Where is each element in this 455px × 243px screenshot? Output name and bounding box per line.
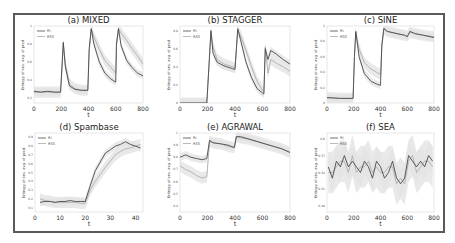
figure: (a) MIXED0200400600800t0.20.40.60.81Entr… <box>0 0 455 243</box>
legend-label: RSS <box>48 142 56 146</box>
y-tick-label: 0.8 <box>173 29 178 33</box>
x-tick-label: 0 <box>32 105 36 112</box>
legend-label: RI <box>340 136 344 140</box>
chart-panel-6: (f) SEA0200400600800t0.480.510.540.570.6… <box>314 122 440 228</box>
y-tick-label: 0.6 <box>28 162 33 166</box>
x-tick-label: 800 <box>284 214 296 221</box>
y-tick-label: 0.7 <box>173 167 178 171</box>
y-tick-label: 0.5 <box>173 192 178 196</box>
x-tick-label: 0 <box>178 214 182 221</box>
legend-label: RI <box>48 136 52 140</box>
x-tick-label: 200 <box>202 105 214 112</box>
y-tick-label: 0.57 <box>318 154 325 158</box>
chart-title: (f) SEA <box>366 122 395 132</box>
chart-panel-2: (b) STAGGER0200400600800t00.20.40.60.8En… <box>167 15 296 119</box>
y-tick-label: 0.8 <box>320 39 325 43</box>
y-tick-label: 0.6 <box>320 137 325 141</box>
x-tick-label: 30 <box>107 214 115 221</box>
x-tick-label: 0 <box>33 214 37 221</box>
x-tick-label: 800 <box>428 105 440 112</box>
x-axis-label: t <box>379 220 382 228</box>
x-tick-label: 0 <box>178 105 182 112</box>
legend-label: RI <box>340 29 344 33</box>
y-tick-label: 0.1 <box>28 206 33 210</box>
y-tick-label: 0.8 <box>173 155 178 159</box>
x-tick-label: 0 <box>325 105 329 112</box>
y-tick-label: 0.9 <box>28 135 33 139</box>
y-tick-label: 0.48 <box>318 204 325 208</box>
y-tick-label: 0.8 <box>28 144 33 148</box>
x-tick-label: 600 <box>257 105 269 112</box>
y-tick-label: 0.4 <box>173 204 178 208</box>
y-tick-label: 0.2 <box>27 96 32 100</box>
y-tick-label: 0.4 <box>320 70 325 74</box>
y-tick-label: 0.2 <box>173 83 178 87</box>
y-tick-label: 0.7 <box>28 153 33 157</box>
legend-label: RSS <box>340 35 348 39</box>
y-tick-label: 0.2 <box>28 197 33 201</box>
legend-label: RI <box>47 29 51 33</box>
y-tick-label: 0.2 <box>320 86 325 90</box>
y-tick-label: 0.4 <box>27 78 32 82</box>
y-tick-label: 0.5 <box>28 171 33 175</box>
y-tick-label: 0.4 <box>28 179 33 183</box>
y-tick-label: 0.9 <box>173 143 178 147</box>
chart-title: (a) MIXED <box>67 15 110 25</box>
x-tick-label: 600 <box>402 214 414 221</box>
legend-label: RSS <box>47 35 55 39</box>
x-tick-label: 200 <box>348 214 360 221</box>
x-tick-label: 600 <box>402 105 414 112</box>
y-axis-label: Entropy of ens. avg. of pred. <box>22 147 26 198</box>
y-tick-label: 1 <box>30 24 32 28</box>
x-tick-label: 800 <box>137 105 149 112</box>
chart-panel-5: (e) AGRAWAL0200400600800t0.40.50.60.70.8… <box>167 122 296 228</box>
legend-label: RSS <box>340 142 348 146</box>
y-tick-label: 1 <box>323 24 325 28</box>
chart-panel-3: (c) SINE0200400600800t00.20.40.60.81Entr… <box>314 15 440 119</box>
chart-title: (c) SINE <box>364 15 398 25</box>
chart-title: (b) STAGGER <box>208 15 263 25</box>
legend-label: RI <box>193 29 197 33</box>
x-tick-label: 600 <box>110 105 122 112</box>
x-tick-label: 800 <box>428 214 440 221</box>
x-axis-label: t <box>379 111 382 119</box>
chart-panel-1: (a) MIXED0200400600800t0.20.40.60.81Entr… <box>21 15 149 119</box>
x-axis-label: t <box>234 220 237 228</box>
legend-label: RSS <box>193 142 201 146</box>
y-tick-label: 0 <box>323 101 325 105</box>
y-axis-label: Entropy of ens. avg. of pred. <box>314 147 318 198</box>
y-tick-label: 0.8 <box>27 42 32 46</box>
y-axis-label: Entropy of ens. avg. of pred. <box>314 39 318 90</box>
chart-panel-4: (d) Spambase010203040t0.10.20.30.40.50.6… <box>22 122 143 228</box>
y-axis-label: Entropy of ens. avg. of pred. <box>167 147 171 198</box>
y-tick-label: 0.6 <box>173 47 178 51</box>
y-tick-label: 0.4 <box>173 65 178 69</box>
y-axis-label: Entropy of ens. avg. of pred. <box>167 39 171 90</box>
x-tick-label: 600 <box>257 214 269 221</box>
x-axis-label: t <box>88 220 91 228</box>
y-tick-label: 0.6 <box>27 60 32 64</box>
y-tick-label: 0.54 <box>318 171 325 175</box>
x-tick-label: 40 <box>132 214 140 221</box>
x-tick-label: 200 <box>202 214 214 221</box>
chart-title: (d) Spambase <box>59 122 118 132</box>
legend-label: RI <box>193 136 197 140</box>
y-tick-label: 0.6 <box>320 55 325 59</box>
legend-label: RSS <box>193 35 201 39</box>
x-tick-label: 0 <box>325 214 329 221</box>
y-tick-label: 0.51 <box>318 187 325 191</box>
x-axis-label: t <box>234 111 237 119</box>
y-tick-label: 0.6 <box>173 180 178 184</box>
y-tick-label: 0.3 <box>28 188 33 192</box>
chart-title: (e) AGRAWAL <box>207 122 263 132</box>
x-tick-label: 800 <box>284 105 296 112</box>
x-tick-label: 200 <box>56 105 68 112</box>
y-axis-label: Entropy of ens. avg. of pred. <box>21 39 25 90</box>
x-tick-label: 10 <box>56 214 64 221</box>
x-tick-label: 200 <box>348 105 360 112</box>
x-axis-label: t <box>87 111 90 119</box>
y-tick-label: 0 <box>176 101 178 105</box>
y-tick-label: 1 <box>176 131 178 135</box>
